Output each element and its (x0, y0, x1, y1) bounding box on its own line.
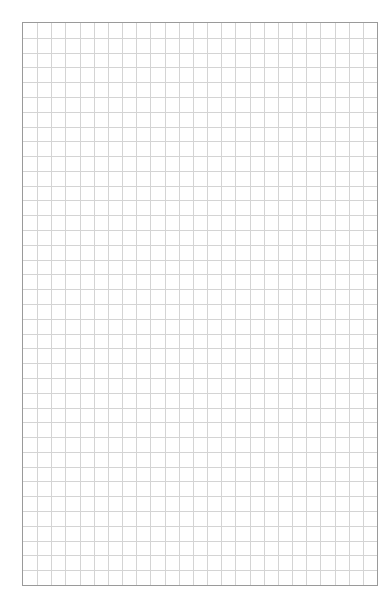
grid-lines (23, 23, 377, 585)
graph-paper-sheet (22, 22, 378, 586)
